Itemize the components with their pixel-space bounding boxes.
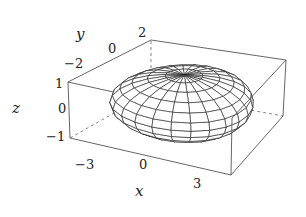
mesh-face	[172, 112, 191, 123]
z-tick-minus1: −1	[46, 129, 65, 144]
x-tick-3: 3	[193, 176, 201, 191]
z-axis-label: z	[11, 99, 20, 117]
y-axis-label: y	[75, 25, 85, 43]
mesh-face	[191, 122, 210, 131]
mesh-face	[173, 102, 190, 113]
z-tick-0: 0	[58, 101, 66, 116]
y-tick-2: 2	[138, 25, 146, 40]
y-tick-minus2: −2	[64, 56, 83, 71]
x-axis-label: x	[135, 182, 144, 200]
mesh-face	[190, 112, 209, 123]
mesh-face	[175, 92, 189, 103]
mesh-face	[171, 122, 191, 131]
box-edge	[283, 60, 286, 116]
y-tick-0: 0	[108, 41, 116, 56]
box-edge	[151, 40, 286, 60]
ellipsoid-3d-plot: y z x −2 0 2 1 0 −1 −3 0 3	[0, 0, 306, 217]
x-tick-minus3: −3	[75, 157, 94, 172]
x-tick-0: 0	[139, 157, 147, 172]
z-tick-1: 1	[55, 76, 63, 91]
box-edge	[68, 82, 70, 138]
